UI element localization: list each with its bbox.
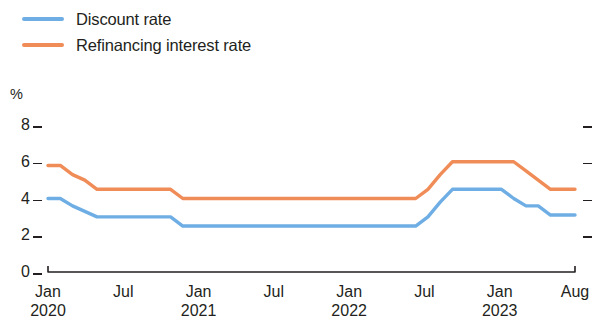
chart-container: Discount rate Refinancing interest rate … [0,0,599,328]
series-lines [48,162,575,226]
axis-lines [48,266,575,272]
series-line-discount-rate [48,189,575,226]
series-line-refinancing-interest-rate [48,162,575,199]
plot-area [0,0,599,328]
x-axis-baseline [48,266,575,272]
